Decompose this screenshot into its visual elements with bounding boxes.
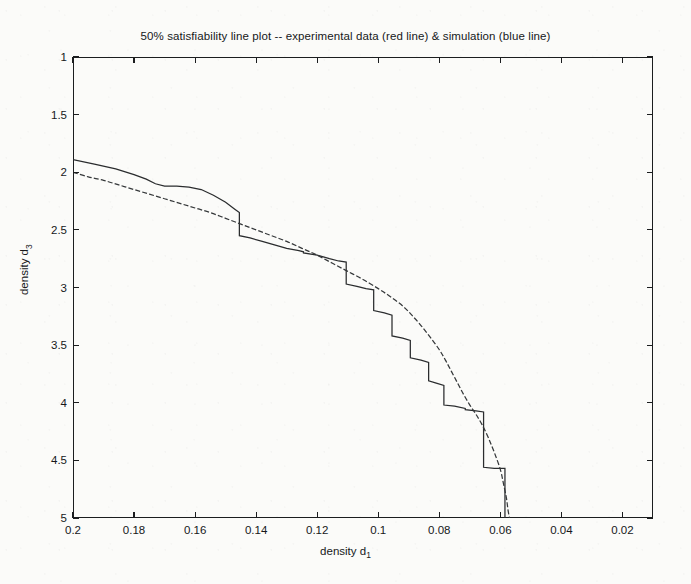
x-tick-label: 0.18 [123,524,145,536]
x-tick-label: 0.1 [370,524,386,536]
x-tick-bottom [561,512,562,518]
series-experimental-data [73,160,505,518]
y-tick-label: 1.5 [27,109,67,121]
y-tick-label: 3.5 [27,339,67,351]
x-tick-bottom [317,512,318,518]
x-tick-top [72,57,73,63]
chart-title: 50% satisfiability line plot -- experime… [0,30,691,42]
y-tick-right [647,172,653,173]
y-tick-left [73,287,79,288]
y-tick-left [73,345,79,346]
y-tick-left [73,114,79,115]
y-tick-label: 1 [27,51,67,63]
x-tick-top [561,57,562,63]
x-tick-label: 0.16 [184,524,206,536]
x-tick-label: 0.04 [550,524,572,536]
y-tick-right [647,345,653,346]
y-tick-label: 5 [27,512,67,524]
y-tick-left [73,460,79,461]
y-axis-label-subscript: 3 [24,244,34,249]
y-tick-right [647,56,653,57]
y-tick-left [73,402,79,403]
y-tick-right [647,114,653,115]
x-tick-bottom [622,512,623,518]
x-tick-bottom [133,512,134,518]
x-tick-bottom [439,512,440,518]
x-tick-top [195,57,196,63]
x-tick-top [439,57,440,63]
y-axis-label-text: density d [18,249,30,295]
x-tick-bottom [195,512,196,518]
y-axis-label: density d3 [18,210,33,330]
x-tick-top [256,57,257,63]
y-tick-label: 4.5 [27,454,67,466]
y-tick-right [647,517,653,518]
y-tick-right [647,229,653,230]
y-tick-left [73,229,79,230]
y-tick-left [73,56,79,57]
x-tick-label: 0.06 [489,524,511,536]
y-tick-left [73,517,79,518]
x-tick-top [378,57,379,63]
y-tick-right [647,287,653,288]
x-tick-label: 0.12 [306,524,328,536]
chart-figure: 50% satisfiability line plot -- experime… [0,0,691,584]
x-tick-top [317,57,318,63]
x-tick-top [133,57,134,63]
x-tick-label: 0.14 [245,524,267,536]
x-tick-bottom [500,512,501,518]
plot-area [73,57,653,518]
x-tick-top [500,57,501,63]
x-tick-label: 0.02 [611,524,633,536]
y-tick-label: 4 [27,397,67,409]
x-axis-label-subscript: 1 [366,550,371,560]
series-simulation [73,172,510,518]
x-tick-top [622,57,623,63]
y-tick-right [647,460,653,461]
x-tick-bottom [378,512,379,518]
x-tick-label: 0.08 [428,524,450,536]
y-tick-right [647,402,653,403]
y-tick-left [73,172,79,173]
x-tick-label: 0.2 [65,524,81,536]
y-tick-label: 2 [27,166,67,178]
x-tick-bottom [256,512,257,518]
x-axis-label: density d1 [0,545,691,560]
x-axis-label-text: density d [320,545,366,557]
